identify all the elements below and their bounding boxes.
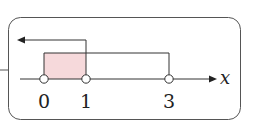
point-0 (40, 75, 48, 83)
shaded-region (44, 53, 86, 79)
axis-arrow-icon (209, 76, 217, 83)
point-3 (165, 75, 173, 83)
tick-label-1: 1 (80, 90, 92, 112)
axis-label: x (220, 67, 230, 88)
arrow-left-icon (17, 37, 25, 44)
point-1 (82, 75, 90, 83)
tick-label-3: 3 (163, 90, 175, 112)
number-line-diagram: x 0 1 3 (0, 0, 256, 126)
tick-label-0: 0 (38, 90, 50, 112)
